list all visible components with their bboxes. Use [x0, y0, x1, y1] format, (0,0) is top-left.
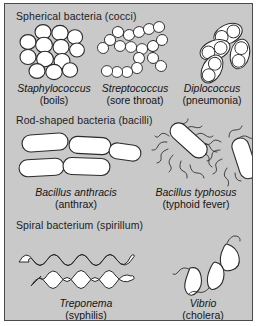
caption-staphylococcus: Staphylococcus (boils) [8, 83, 100, 106]
caption-vibrio: Vibrio (cholera) [157, 298, 249, 321]
genus-treponema: Treponema [27, 298, 145, 310]
disease-bacillus-anthracis: (anthrax) [17, 199, 135, 211]
disease-treponema: (syphilis) [27, 310, 145, 322]
genus-diplococcus: Diplococcus [171, 83, 253, 95]
illustration-vibrio [173, 232, 253, 298]
illustration-bacillus-typhosus [157, 122, 253, 188]
disease-streptococcus: (sore throat) [89, 95, 181, 107]
illustration-diplococcus [195, 23, 253, 80]
genus-vibrio: Vibrio [157, 298, 249, 310]
disease-diplococcus: (pneumonia) [171, 95, 253, 107]
caption-streptococcus: Streptococcus (sore throat) [89, 83, 181, 106]
section-heading-bacilli: Rod-shaped bacteria (bacilli) [16, 114, 153, 126]
genus-bacillus-anthracis: Bacillus anthracis [17, 187, 135, 199]
caption-bacillus-anthracis: Bacillus anthracis (anthrax) [17, 187, 135, 210]
caption-bacillus-typhosus: Bacillus typhosus (typhoid fever) [141, 187, 251, 210]
genus-streptococcus: Streptococcus [89, 83, 181, 95]
caption-treponema: Treponema (syphilis) [27, 298, 145, 321]
section-heading-cocci: Spherical bacteria (cocci) [16, 10, 136, 22]
illustration-bacillus-anthracis [19, 130, 141, 184]
genus-bacillus-typhosus: Bacillus typhosus [141, 187, 251, 199]
illustration-staphylococcus [18, 24, 90, 80]
caption-diplococcus: Diplococcus (pneumonia) [171, 83, 253, 106]
genus-staphylococcus: Staphylococcus [8, 83, 100, 95]
bacteria-shapes-figure: Spherical bacteria (cocci) [4, 3, 253, 321]
illustration-treponema [15, 236, 155, 298]
disease-staphylococcus: (boils) [8, 95, 100, 107]
disease-bacillus-typhosus: (typhoid fever) [141, 199, 251, 211]
disease-vibrio: (cholera) [157, 310, 249, 322]
illustration-streptococcus [96, 22, 174, 80]
section-heading-spirillum: Spiral bacterium (spirillum) [16, 219, 143, 231]
